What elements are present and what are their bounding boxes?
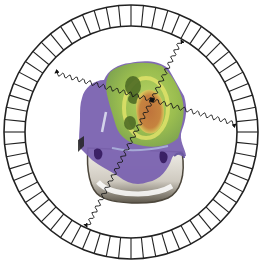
detector-crystal [106, 7, 110, 28]
detector-crystal [71, 20, 81, 39]
pet-diagram: PET scanner detector ring with annihilat… [0, 0, 263, 267]
annihilation-point [150, 98, 155, 103]
detector-crystal [229, 173, 248, 181]
detector-crystal [162, 10, 168, 30]
detector-crystal [82, 15, 90, 34]
detector-crystal [19, 182, 38, 192]
detector-crystal [198, 214, 211, 230]
detector-crystal [5, 142, 26, 144]
detector-crystal [9, 95, 29, 101]
detector-crystal [50, 34, 63, 50]
detector-crystal [236, 142, 257, 144]
head-scan-overlay [78, 61, 186, 203]
detector-crystal [172, 15, 180, 34]
detector-crystal [235, 153, 256, 157]
detector-crystal [224, 72, 243, 82]
detector-crystal [219, 61, 236, 73]
detector-crystal [82, 230, 90, 249]
detector-crystal [236, 120, 257, 122]
detector-crystal [141, 237, 143, 258]
detector-crystal [141, 6, 143, 27]
detector-crystal [190, 26, 202, 43]
detector-crystal [50, 214, 63, 230]
detector-crystal [19, 72, 38, 82]
dark-green-lesion [124, 116, 136, 130]
detector-crystal [6, 153, 27, 157]
detector-crystal [198, 34, 211, 50]
detector-crystal [71, 225, 81, 244]
detector-crystal [181, 20, 191, 39]
detector-crystal [6, 107, 27, 111]
detector-crystal [41, 207, 56, 222]
detector-crystal [219, 191, 236, 203]
detector-crystal [152, 236, 156, 257]
hot-spot-tumor [136, 90, 164, 134]
detector-crystal [60, 26, 72, 43]
detector-crystal [229, 83, 248, 91]
detector-crystal [232, 95, 252, 101]
detector-crystal [14, 83, 33, 91]
detector-crystal [9, 163, 29, 169]
detector-crystal [224, 182, 243, 192]
detector-crystal [119, 6, 121, 27]
detector-crystal [25, 61, 42, 73]
detector-crystal [60, 220, 72, 237]
detector-crystal [106, 236, 110, 257]
detector-crystal [213, 199, 229, 212]
detector-crystal [152, 7, 156, 28]
detector-crystal [172, 230, 180, 249]
detector-crystal [206, 42, 221, 57]
detector-crystal [94, 233, 100, 253]
detector-crystal [25, 191, 42, 203]
detector-crystal [190, 220, 202, 237]
detector-crystal [162, 233, 168, 253]
detector-crystal [119, 237, 121, 258]
detector-crystal [206, 207, 221, 222]
detector-crystal [5, 120, 26, 122]
detector-crystal [213, 51, 229, 64]
detector-crystal [33, 199, 49, 212]
detector-crystal [94, 10, 100, 30]
detector-crystal [14, 173, 33, 181]
dark-green-lesion [125, 76, 141, 96]
detector-crystal [232, 163, 252, 169]
detector-crystal [181, 225, 191, 244]
detector-crystal [41, 42, 56, 57]
detector-crystal [235, 107, 256, 111]
pet-ring-figure [0, 0, 263, 267]
detector-crystal [33, 51, 49, 64]
